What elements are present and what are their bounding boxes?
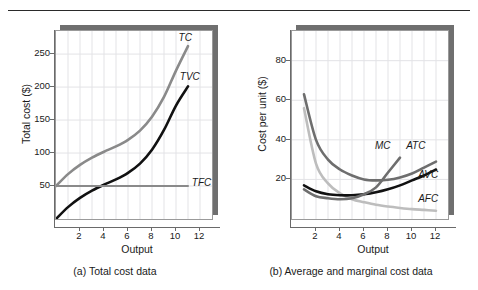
curve-label-tvc: TVC — [180, 72, 200, 82]
x-tick-mark — [175, 227, 176, 231]
plot-box-a — [55, 30, 213, 220]
x-tick-mark — [79, 227, 80, 231]
x-tick-mark — [127, 227, 128, 231]
curve-label-atc: ATC — [406, 141, 425, 151]
x-tick-label: 8 — [141, 231, 161, 241]
x-tick-mark — [151, 227, 152, 231]
panel-total-cost: 50100150200250 24681012 TCTVCTFC Total c… — [10, 22, 220, 266]
plot-svg-a — [56, 31, 212, 219]
x-tick-label: 4 — [329, 231, 349, 241]
panel-average-marginal-cost: 20406080 24681012 MCATCAVCAFC Cost per u… — [246, 22, 456, 266]
x-tick-mark — [199, 227, 200, 231]
x-tick-mark — [435, 227, 436, 231]
x-tick-label: 6 — [117, 231, 137, 241]
y-tick-mark — [286, 139, 290, 140]
x-tick-mark — [387, 227, 388, 231]
plot-area-a: TCTVCTFC — [55, 30, 213, 220]
x-tick-label: 2 — [69, 231, 89, 241]
curve-label-afc: AFC — [418, 194, 438, 204]
figure-top-rule — [8, 10, 470, 11]
plot-box-b — [291, 30, 449, 220]
curve-label-mc: MC — [375, 141, 391, 151]
x-tick-label: 12 — [425, 231, 445, 241]
y-axis-label-a: Total cost ($) — [20, 49, 32, 179]
x-axis-label-a: Output — [54, 243, 220, 255]
plot-svg-b — [292, 31, 448, 219]
curve-label-avc: AVC — [418, 170, 438, 180]
curve-label-tc: TC — [179, 33, 192, 43]
x-tick-mark — [103, 227, 104, 231]
x-tick-mark — [315, 227, 316, 231]
y-tick-mark — [50, 185, 54, 186]
x-tick-label: 2 — [305, 231, 325, 241]
x-tick-mark — [339, 227, 340, 231]
x-tick-label: 6 — [353, 231, 373, 241]
cost-curves-figure: 50100150200250 24681012 TCTVCTFC Total c… — [0, 0, 478, 290]
panel-caption-b: (b) Average and marginal cost data — [246, 265, 456, 277]
y-tick-label: 50 — [16, 180, 50, 190]
y-tick-mark — [50, 86, 54, 87]
x-tick-label: 10 — [165, 231, 185, 241]
x-axis-label-b: Output — [290, 243, 456, 255]
y-tick-mark — [50, 119, 54, 120]
x-tick-label: 10 — [401, 231, 421, 241]
y-tick-mark — [286, 60, 290, 61]
x-tick-mark — [411, 227, 412, 231]
y-axis-label-b: Cost per unit ($) — [256, 49, 268, 179]
y-tick-mark — [286, 178, 290, 179]
x-tick-mark — [363, 227, 364, 231]
y-tick-mark — [50, 53, 54, 54]
curve-label-tfc: TFC — [192, 178, 211, 188]
y-tick-mark — [50, 152, 54, 153]
y-tick-mark — [286, 99, 290, 100]
plot-area-b: MCATCAVCAFC — [291, 30, 449, 220]
x-tick-label: 4 — [93, 231, 113, 241]
panel-caption-a: (a) Total cost data — [10, 265, 220, 277]
x-tick-label: 12 — [189, 231, 209, 241]
x-tick-label: 8 — [377, 231, 397, 241]
